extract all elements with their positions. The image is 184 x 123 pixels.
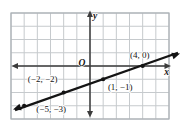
point-label: (−2, −2) xyxy=(28,74,58,84)
point-label: (1, −1) xyxy=(108,82,133,92)
origin-label: O xyxy=(79,58,86,68)
data-point xyxy=(101,77,105,81)
point-label: (4, 0) xyxy=(130,50,150,60)
data-point xyxy=(141,64,145,68)
x-axis-label: x xyxy=(163,67,169,77)
coordinate-plane-figure: (−5, −3)(−2, −2)(1, −1)(4, 0)xyO xyxy=(0,0,184,123)
point-label: (−5, −3) xyxy=(36,104,66,114)
y-axis-label: y xyxy=(92,11,98,21)
data-point xyxy=(62,90,66,94)
data-point xyxy=(22,104,26,108)
graph-canvas: (−5, −3)(−2, −2)(1, −1)(4, 0)xyO xyxy=(0,0,184,123)
